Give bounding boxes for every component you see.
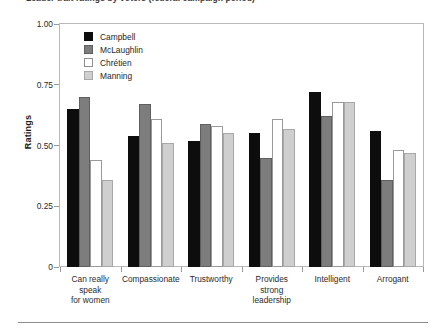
y-tick-mark: [54, 145, 59, 146]
bar: [404, 153, 416, 267]
legend-item: Chrétien: [84, 56, 194, 69]
legend-label: Chrétien: [100, 58, 132, 68]
x-tick-mark: [302, 267, 303, 272]
y-tick-label: 1.00: [10, 19, 53, 29]
bar: [211, 126, 223, 267]
bar: [102, 180, 114, 267]
bar: [332, 102, 344, 267]
x-tick-mark: [363, 267, 364, 272]
chart-title: Leader trait ratings by voters (federal …: [26, 0, 426, 3]
bar: [188, 141, 200, 267]
bar: [309, 92, 321, 267]
x-tick-mark: [423, 267, 424, 272]
bar: [370, 131, 382, 267]
y-tick-mark: [54, 206, 59, 207]
bar: [151, 119, 163, 267]
bar: [223, 133, 235, 267]
bar: [260, 158, 272, 267]
bar-group: [363, 24, 424, 267]
legend-label: Campbell: [100, 32, 135, 42]
bar: [200, 124, 212, 267]
legend-label: Manning: [100, 71, 132, 81]
legend-item: McLaughlin: [84, 43, 194, 56]
figure: Leader trait ratings by voters (federal …: [0, 0, 446, 334]
x-tick-mark: [121, 267, 122, 272]
y-tick-mark: [54, 84, 59, 85]
bar: [90, 160, 102, 267]
y-tick-label: 0.25: [10, 201, 53, 211]
y-tick-mark: [54, 24, 59, 25]
x-tick-mark: [181, 267, 182, 272]
bar: [162, 143, 174, 267]
legend-item: Manning: [84, 69, 194, 82]
legend-swatch: [84, 58, 93, 67]
y-tick-label: 0: [10, 262, 53, 272]
x-tick-mark: [242, 267, 243, 272]
bar: [67, 109, 79, 267]
bar-group: [242, 24, 303, 267]
x-axis-label: Arrogant: [357, 274, 430, 285]
legend-swatch: [84, 71, 93, 80]
bar: [381, 180, 393, 267]
bar: [393, 150, 405, 267]
y-tick-mark: [54, 267, 59, 268]
bar: [272, 119, 284, 267]
legend-swatch: [84, 45, 93, 54]
bar: [79, 97, 91, 267]
bar: [321, 116, 333, 267]
legend-label: McLaughlin: [100, 45, 143, 55]
legend-swatch: [84, 32, 93, 41]
bar-group: [302, 24, 363, 267]
y-tick-label: 0.75: [10, 80, 53, 90]
bar: [249, 133, 261, 267]
y-axis-label: Ratings: [23, 102, 33, 162]
bar: [139, 104, 151, 267]
footer-rule: [18, 322, 428, 323]
chart-legend: CampbellMcLaughlinChrétienManning: [84, 30, 194, 82]
bar: [344, 102, 356, 267]
legend-item: Campbell: [84, 30, 194, 43]
x-tick-mark: [60, 267, 61, 272]
bar: [283, 129, 295, 268]
bar: [128, 136, 140, 267]
y-tick-label: 0.50: [10, 141, 53, 151]
